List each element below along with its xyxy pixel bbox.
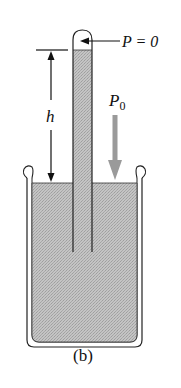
atmospheric-pressure-label: P0 [108,91,125,113]
height-label: h [46,107,55,126]
arrow-up-icon [48,51,55,60]
barometer-diagram: P = 0 h P0 (b) [0,0,181,388]
vacuum-pressure-label: P = 0 [121,33,158,50]
arrow-down-icon [48,173,55,182]
atmospheric-pressure-arrow [108,115,122,180]
subfigure-label: (b) [73,346,93,365]
vacuum-pressure-arrow [80,38,120,45]
barometer-tube [73,30,92,252]
